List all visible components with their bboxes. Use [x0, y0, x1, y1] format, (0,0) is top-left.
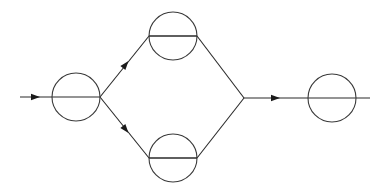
lower-node [149, 134, 197, 182]
upper-branch-out [197, 36, 244, 98]
lower-branch-out [197, 98, 244, 158]
arrow-icon [271, 95, 280, 101]
arrow-icon [31, 94, 40, 100]
edges [20, 36, 370, 158]
upper-node [149, 12, 197, 60]
flow-diagram [0, 0, 386, 194]
